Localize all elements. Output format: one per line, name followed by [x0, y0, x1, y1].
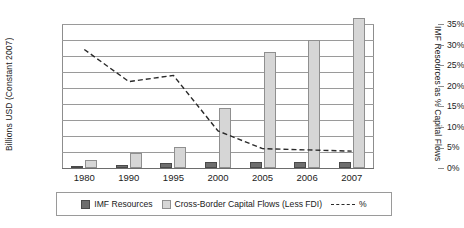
percent-dashed-line: [84, 50, 351, 152]
legend-item: %: [331, 199, 367, 209]
plot-area: $0$1,000$2,000$3,000$4,000$5,000$6,000$7…: [62, 24, 374, 168]
legend-item: IMF Resources: [81, 199, 152, 209]
y-axis-left-title: Billions USD (Constant 2007): [2, 14, 16, 174]
y2-tick-label: 30%: [438, 40, 464, 50]
legend-swatch-dark: [81, 200, 90, 209]
y2-tick-label: 5%: [438, 142, 460, 152]
x-tick-label: 2006: [285, 172, 330, 183]
gridline: [62, 168, 374, 169]
legend-swatch-light: [162, 200, 171, 209]
percent-line-series: [62, 24, 374, 168]
legend-label: IMF Resources: [94, 199, 152, 209]
y2-tick-label: 20%: [438, 81, 464, 91]
legend-label: Cross-Border Capital Flows (Less FDI): [175, 199, 323, 209]
x-tick-label: 1995: [151, 172, 196, 183]
x-tick-label: 1990: [107, 172, 152, 183]
legend-item: Cross-Border Capital Flows (Less FDI): [162, 199, 323, 209]
legend-swatch-line: [331, 204, 355, 205]
y2-tick-label: 10%: [438, 122, 464, 132]
chart-legend: IMF ResourcesCross-Border Capital Flows …: [56, 192, 392, 216]
y2-tick-label: 35%: [438, 19, 464, 29]
legend-label: %: [359, 199, 367, 209]
y2-tick-label: 25%: [438, 60, 464, 70]
x-tick-label: 2000: [196, 172, 241, 183]
x-tick-label: 2005: [240, 172, 285, 183]
x-tick-label: 1980: [62, 172, 107, 183]
x-tick-label: 2007: [329, 172, 374, 183]
y2-tick-label: 15%: [438, 101, 464, 111]
y2-tick-label: 0%: [438, 163, 460, 173]
